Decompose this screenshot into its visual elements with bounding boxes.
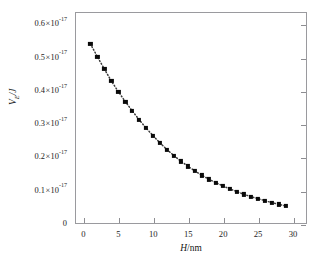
y-tick-mantissa: 0 xyxy=(63,219,67,228)
data-point-marker xyxy=(130,109,134,113)
y-tick-base: 10 xyxy=(51,186,59,195)
y-axis-title: VE/J xyxy=(8,65,20,105)
data-point-marker xyxy=(151,134,155,138)
x-axis-title-unit: nm xyxy=(190,243,202,253)
data-point-marker xyxy=(207,177,211,181)
data-point-marker xyxy=(256,197,260,201)
data-point-marker xyxy=(284,204,288,208)
x-axis-tick-label: 0 xyxy=(68,230,98,239)
y-tick-exponent: -17 xyxy=(59,16,67,22)
y-tick-mantissa: 0.5 xyxy=(35,53,45,62)
y-axis-tick-label: 0 xyxy=(0,220,67,228)
y-axis-tick-label: 0.3×10-17 xyxy=(0,120,67,128)
data-point-marker xyxy=(137,118,141,122)
y-tick-base: 10 xyxy=(51,119,59,128)
data-point-marker xyxy=(263,199,267,203)
data-point-marker xyxy=(165,148,169,152)
data-point-marker xyxy=(235,190,239,194)
y-tick-mantissa: 0.1 xyxy=(35,186,45,195)
y-tick-exponent: -17 xyxy=(59,116,67,122)
data-point-marker xyxy=(95,55,99,59)
y-axis-tick-label: 0.5×10-17 xyxy=(0,54,67,62)
y-tick-exponent: -17 xyxy=(59,182,67,188)
data-point-marker xyxy=(172,154,176,158)
plot-area xyxy=(75,12,307,224)
y-axis-title-symbol: V xyxy=(8,99,18,105)
y-tick-exponent: -17 xyxy=(59,49,67,55)
data-point-marker xyxy=(109,79,113,83)
x-axis-tick-label: 20 xyxy=(208,230,238,239)
data-point-marker xyxy=(158,141,162,145)
y-tick-exponent: -17 xyxy=(59,82,67,88)
data-point-marker xyxy=(200,173,204,177)
x-axis-title: H/nm xyxy=(75,243,307,253)
y-tick-mantissa: 0.6 xyxy=(35,19,45,28)
y-axis-tick xyxy=(301,225,306,226)
y-tick-exponent: -17 xyxy=(59,149,67,155)
y-tick-base: 10 xyxy=(51,53,59,62)
trend-dotted-line xyxy=(75,12,307,224)
y-axis-tick-label: 0.6×10-17 xyxy=(0,20,67,28)
data-point-marker xyxy=(144,126,148,130)
trend-polyline xyxy=(90,44,286,206)
data-point-marker xyxy=(102,67,106,71)
clipped-caption-text: · ·· ·· ·· · ·· ··· xyxy=(4,0,100,3)
data-point-marker xyxy=(186,164,190,168)
y-tick-base: 10 xyxy=(51,86,59,95)
data-point-marker xyxy=(277,202,281,206)
y-axis-tick-label: 0.4×10-17 xyxy=(0,87,67,95)
x-axis-tick-label: 5 xyxy=(103,230,133,239)
x-axis-tick-label: 30 xyxy=(278,230,308,239)
y-axis-title-subscript: E xyxy=(13,95,20,99)
x-axis-tick-label: 15 xyxy=(173,230,203,239)
data-point-marker xyxy=(221,184,225,188)
data-point-marker xyxy=(228,187,232,191)
x-axis-tick-label: 10 xyxy=(138,230,168,239)
data-point-marker xyxy=(179,159,183,163)
x-axis-tick-label: 25 xyxy=(243,230,273,239)
y-tick-base: 10 xyxy=(51,152,59,161)
y-tick-mantissa: 0.2 xyxy=(35,152,45,161)
data-point-marker xyxy=(116,90,120,94)
data-point-marker xyxy=(249,195,253,199)
data-point-marker xyxy=(193,169,197,173)
figure-root: · ·· ·· ·· · ·· ··· VE/J H/nm 00.1×10-17… xyxy=(0,0,326,264)
y-axis-tick-label: 0.1×10-17 xyxy=(0,187,67,195)
y-tick-base: 10 xyxy=(51,19,59,28)
data-point-marker xyxy=(214,181,218,185)
y-axis-tick-label: 0.2×10-17 xyxy=(0,153,67,161)
data-point-marker xyxy=(270,201,274,205)
data-point-marker xyxy=(88,42,92,46)
data-point-marker xyxy=(242,192,246,196)
y-tick-mantissa: 0.3 xyxy=(35,119,45,128)
y-tick-mantissa: 0.4 xyxy=(35,86,45,95)
data-point-marker xyxy=(123,100,127,104)
clipped-caption-fragment: · ·· ·· ·· · ·· ··· xyxy=(4,0,100,6)
